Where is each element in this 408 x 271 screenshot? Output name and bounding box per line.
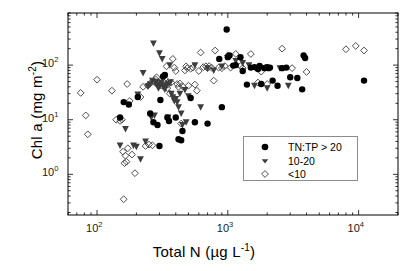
x-tick-label: 103 (217, 222, 233, 234)
legend-label-1: 10-20 (288, 154, 315, 168)
legend-row: TN:TP > 20 (244, 140, 359, 154)
legend-label-0: TN:TP > 20 (288, 140, 342, 154)
chart-figure: 102 101 100 102 103 104 Total N (µg L-1)… (0, 0, 408, 271)
plot-frame (68, 13, 398, 215)
y-axis-label-wrapper: Chl a (mg m-2) (28, 10, 48, 210)
x-axis-label: Total N (µg L-1) (0, 243, 408, 260)
legend-marker-filled-triangle-down (258, 154, 272, 168)
y-axis-label: Chl a (mg m-2) (28, 61, 45, 159)
legend-row: 10-20 (244, 154, 359, 168)
x-tick-label: 102 (86, 222, 102, 234)
chart-legend: TN:TP > 20 10-20 <10 (243, 136, 358, 181)
legend-marker-open-diamond (258, 167, 272, 181)
legend-marker-filled-circle (258, 140, 272, 154)
x-tick-label: 104 (348, 222, 364, 234)
legend-label-2: <10 (288, 167, 306, 181)
axis-ticks (68, 13, 398, 215)
legend-row: <10 (244, 167, 359, 181)
